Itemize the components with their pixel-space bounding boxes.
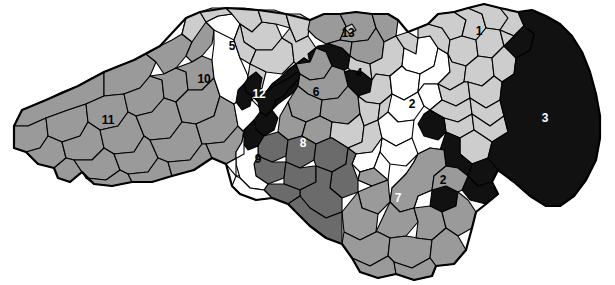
map-svg	[0, 0, 615, 285]
congressional-district-map: 1 2 2 3 4 5 6 7 8 9 10 11 12 13	[0, 0, 615, 285]
district-11-counties	[14, 22, 246, 186]
district-8-counties	[254, 132, 358, 244]
